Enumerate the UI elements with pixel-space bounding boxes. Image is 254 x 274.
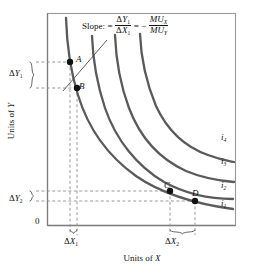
delta-y2-label: ΔY2	[9, 193, 23, 204]
subscript-num: 1	[127, 19, 130, 25]
brace-delta-y2	[30, 191, 34, 201]
brace-delta-x1	[70, 230, 77, 234]
delta-x2-label: ΔX2	[165, 236, 179, 247]
slope-formula-fraction-delta: ΔY1 ΔX1	[115, 15, 131, 36]
point-label-D: D	[192, 188, 199, 198]
point-D	[192, 198, 198, 204]
point-label-B: B	[79, 81, 85, 91]
mu-y-text: MU	[150, 25, 164, 35]
slope-formula-prefix: Slope:	[82, 21, 105, 31]
curve-label-i1: i1	[221, 198, 226, 209]
y-axis-title-prefix: Units of	[6, 108, 16, 140]
point-label-C: C	[164, 180, 170, 190]
curve-label-i3: i3	[221, 156, 226, 167]
y-axis-title-var: Y	[6, 103, 16, 108]
brace-delta-y1	[30, 62, 34, 88]
curve-label-i2: i2	[221, 180, 226, 191]
tangent-line-at-A	[63, 40, 107, 91]
slope-formula-minus: −	[141, 21, 146, 31]
indifference-curve-i1	[66, 18, 233, 209]
x-axis-title-var: X	[155, 253, 161, 263]
slope-formula-fraction-mu: MUX MUY	[149, 15, 168, 36]
indifference-curve-figure	[0, 0, 254, 274]
delta-y2-subscript: 2	[20, 198, 23, 204]
curve-label-i2-subscript: 2	[224, 185, 227, 191]
x-axis-title: Units of X	[47, 253, 237, 263]
slope-formula-equals-1: =	[108, 21, 113, 31]
slope-formula: Slope: = ΔY1 ΔX1 = − MUX MUY	[82, 15, 168, 36]
x-axis-title-prefix: Units of	[124, 253, 156, 263]
slope-fraction-denominator: ΔX1	[115, 25, 131, 36]
origin-label: 0	[35, 216, 40, 226]
slope-formula-equals-2: =	[134, 21, 139, 31]
point-A	[67, 59, 73, 65]
curve-label-i1-subscript: 1	[224, 203, 227, 209]
mu-y-subscript: Y	[164, 30, 167, 36]
guide-lines	[36, 62, 195, 235]
slope-fraction-numerator: ΔY1	[115, 15, 131, 25]
mu-x-text: MU	[150, 14, 164, 24]
brace-delta-x2	[170, 230, 195, 234]
mu-x-subscript: X	[164, 19, 167, 25]
y-axis-title: Units of Y	[6, 89, 16, 153]
subscript-den: 1	[127, 30, 130, 36]
curve-label-i4-subscript: 4	[224, 137, 227, 143]
mu-fraction-denominator: MUY	[149, 25, 168, 36]
indifference-curve-i3	[115, 35, 234, 182]
delta-x1-label: ΔX1	[64, 236, 78, 247]
delta-y1-subscript: 1	[20, 73, 23, 79]
mu-fraction-numerator: MUX	[149, 15, 168, 25]
data-points	[67, 59, 198, 204]
indifference-curve-i4	[140, 34, 234, 162]
delta-x2-subscript: 2	[176, 241, 179, 247]
curve-label-i3-subscript: 3	[224, 161, 227, 167]
delta-y1-label: ΔY1	[9, 68, 23, 79]
delta-x1-subscript: 1	[75, 241, 78, 247]
curve-label-i4: i4	[221, 132, 226, 143]
point-label-A: A	[76, 54, 82, 64]
